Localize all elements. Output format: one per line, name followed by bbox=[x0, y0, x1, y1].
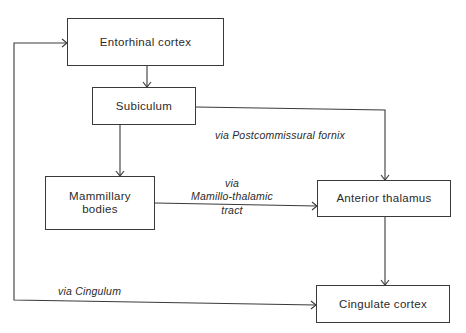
node-mammillary-bodies: Mammillary bodies bbox=[45, 176, 155, 230]
node-label: Anterior thalamus bbox=[336, 192, 431, 205]
node-label: Subiculum bbox=[116, 100, 172, 113]
edge-label-mt-tract: tract bbox=[212, 204, 252, 217]
edge-label-mt-name: Mamillo-thalamic bbox=[187, 190, 277, 203]
node-subiculum: Subiculum bbox=[92, 87, 196, 125]
node-label-line2: bodies bbox=[82, 203, 118, 216]
edge-subiculum-thalamus bbox=[196, 107, 385, 180]
node-entorhinal-cortex: Entorhinal cortex bbox=[67, 18, 224, 66]
node-label: Cingulate cortex bbox=[339, 298, 427, 311]
node-anterior-thalamus: Anterior thalamus bbox=[317, 180, 451, 217]
edge-label-cingulum: via Cingulum bbox=[58, 285, 121, 298]
node-cingulate-cortex: Cingulate cortex bbox=[316, 285, 450, 323]
edge-label-mt-via: via bbox=[222, 177, 242, 190]
node-label: Entorhinal cortex bbox=[100, 36, 191, 49]
edge-cingulate-entorhinal bbox=[14, 43, 316, 305]
node-label-line1: Mammillary bbox=[69, 190, 131, 203]
edge-label-fornix: via Postcommissural fornix bbox=[215, 129, 345, 142]
